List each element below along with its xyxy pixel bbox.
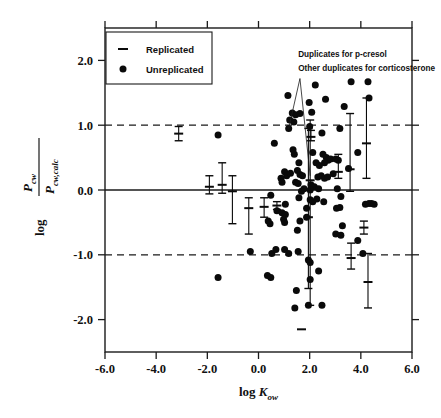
x-axis-title: log Kow <box>239 384 279 402</box>
data-point-unreplicated <box>293 287 300 294</box>
data-point-unreplicated <box>341 103 348 110</box>
data-point-unreplicated <box>272 246 279 253</box>
annotation-text-1: Other duplicates for corticosterone <box>298 64 435 73</box>
annotation-text-0: Duplicates for p-cresol <box>298 50 387 59</box>
y-tick-label-3: -1.0 <box>73 248 93 262</box>
y-tick-label-4: -2.0 <box>73 313 93 327</box>
data-point-unreplicated <box>291 304 298 311</box>
data-point-unreplicated <box>315 268 322 275</box>
data-point-unreplicated <box>336 125 343 132</box>
x-tick-label-2: -2.0 <box>197 362 217 376</box>
data-point-unreplicated <box>215 274 222 281</box>
data-point-unreplicated <box>284 92 291 99</box>
data-point-unreplicated <box>306 99 313 106</box>
data-point-unreplicated <box>312 82 319 89</box>
x-tick-label-0: -6.0 <box>95 362 115 376</box>
y-tick-label-1: 1.0 <box>77 119 93 133</box>
data-point-unreplicated <box>291 151 298 158</box>
data-point-unreplicated <box>334 185 341 192</box>
data-point-unreplicated <box>287 170 294 177</box>
data-point-unreplicated <box>339 222 346 229</box>
data-point-unreplicated <box>354 149 361 156</box>
data-point-unreplicated <box>348 78 355 85</box>
data-point-unreplicated <box>295 159 302 166</box>
data-point-unreplicated <box>315 185 322 192</box>
x-tick-label-3: 0.0 <box>251 362 267 376</box>
data-point-unreplicated <box>279 179 286 186</box>
data-point-unreplicated <box>294 227 301 234</box>
data-point-unreplicated <box>298 188 305 195</box>
data-point-unreplicated <box>320 198 327 205</box>
data-point-unreplicated <box>322 96 329 103</box>
data-point-unreplicated <box>267 192 274 199</box>
data-point-unreplicated <box>215 131 222 138</box>
legend-box <box>106 32 212 84</box>
data-point-unreplicated <box>290 118 297 125</box>
data-point-unreplicated <box>318 302 325 309</box>
data-point-unreplicated <box>337 193 344 200</box>
data-point-unreplicated <box>267 274 274 281</box>
data-point-unreplicated <box>296 110 303 117</box>
scatter-plot-figure: -6.0-4.0-2.00.02.04.06.02.01.00.0-1.0-2.… <box>0 0 441 418</box>
data-point-unreplicated <box>296 218 303 225</box>
x-tick-label-1: -4.0 <box>146 362 166 376</box>
y-tick-label-2: 0.0 <box>77 184 93 198</box>
data-point-unreplicated <box>364 78 371 85</box>
legend-marker-unreplicated <box>120 66 127 73</box>
data-point-unreplicated <box>308 109 315 116</box>
legend-label-0: Replicated <box>146 44 194 55</box>
data-point-unreplicated <box>282 201 289 208</box>
data-point-unreplicated <box>336 204 343 211</box>
y-tick-label-0: 2.0 <box>77 54 93 68</box>
data-point-unreplicated <box>313 196 320 203</box>
y-axis-title-denominator: Pcw,calc <box>42 159 60 194</box>
data-point-unreplicated <box>285 250 292 257</box>
x-tick-label-6: 6.0 <box>404 362 420 376</box>
data-point-unreplicated <box>354 237 361 244</box>
data-point-unreplicated <box>295 180 302 187</box>
chart-canvas: -6.0-4.0-2.00.02.04.06.02.01.00.0-1.0-2.… <box>0 0 441 418</box>
data-point-unreplicated <box>247 248 254 255</box>
data-point-unreplicated <box>337 232 344 239</box>
data-point-unreplicated <box>318 129 325 136</box>
data-point-unreplicated <box>303 205 310 212</box>
data-point-unreplicated <box>267 220 274 227</box>
x-tick-label-5: 4.0 <box>353 362 369 376</box>
data-point-unreplicated <box>271 140 278 147</box>
legend-label-1: Unreplicated <box>146 64 204 75</box>
data-point-unreplicated <box>299 172 306 179</box>
y-axis-title-prefix: log <box>32 219 47 236</box>
data-point-unreplicated <box>316 162 323 169</box>
data-point-unreplicated <box>295 194 302 201</box>
x-tick-label-4: 2.0 <box>302 362 318 376</box>
y-axis-title-numerator: Pcw <box>20 173 38 192</box>
data-point-unreplicated <box>281 219 288 226</box>
y-axis-title: logPcwPcw,calc <box>20 138 60 236</box>
data-point-unreplicated <box>371 201 378 208</box>
data-point-unreplicated <box>295 248 302 255</box>
